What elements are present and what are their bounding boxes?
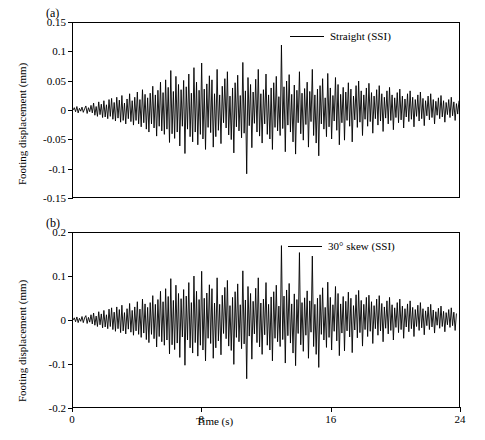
legend-line-b [288, 246, 322, 247]
y-tick-label: -0.05 [30, 133, 66, 145]
x-tick-mark [72, 407, 73, 412]
waveform-b [73, 233, 459, 407]
x-axis-label-b: Time (s) [196, 415, 233, 427]
waveform-a [73, 23, 459, 197]
legend-line-a [290, 36, 324, 37]
y-tick-label: 0 [30, 314, 66, 326]
y-axis-label-a: Footing displacement (mm) [16, 63, 28, 185]
x-tick-label: 16 [325, 413, 336, 425]
plot-area-b [72, 232, 460, 408]
series-path [73, 45, 459, 174]
legend-label-a: Straight (SSI) [330, 30, 391, 42]
x-tick-mark [460, 407, 461, 412]
legend-a: Straight (SSI) [290, 30, 391, 42]
y-tick-label: 0.1 [30, 270, 66, 282]
x-tick-mark [331, 407, 332, 412]
y-tick-mark [68, 198, 73, 199]
series-path [73, 246, 456, 379]
y-tick-label: -0.15 [30, 192, 66, 204]
y-tick-label: 0 [30, 104, 66, 116]
plot-area-a [72, 22, 460, 198]
legend-label-b: 30° skew (SSI) [328, 240, 395, 252]
y-tick-label: -0.1 [30, 358, 66, 370]
legend-b: 30° skew (SSI) [288, 240, 395, 252]
x-tick-mark [201, 407, 202, 412]
chart-panel-a: (a) Footing displacement (mm) -0.15-0.1-… [0, 0, 485, 215]
x-tick-label: 24 [455, 413, 466, 425]
figure: (a) Footing displacement (mm) -0.15-0.1-… [0, 0, 485, 440]
y-tick-label: 0.2 [30, 226, 66, 238]
y-tick-label: 0.15 [30, 16, 66, 28]
y-axis-label-b: Footing displacement (mm) [16, 280, 28, 402]
y-tick-label: -0.1 [30, 163, 66, 175]
y-tick-label: 0.1 [30, 45, 66, 57]
y-tick-label: -0.2 [30, 402, 66, 414]
y-tick-label: 0.05 [30, 75, 66, 87]
x-tick-label: 0 [69, 413, 75, 425]
chart-panel-b: (b) Footing displacement (mm) -0.2-0.100… [0, 210, 485, 440]
